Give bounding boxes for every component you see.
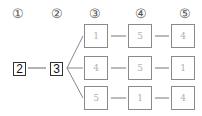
branch-3-col3: 5: [84, 86, 108, 110]
column-label-2: ②: [47, 5, 67, 23]
branch-1-col4: 5: [128, 24, 152, 48]
second-box: 3: [50, 62, 63, 76]
root-box: 2: [13, 62, 26, 76]
branch-2-col5: 1: [171, 56, 195, 80]
branch-2-col4: 5: [128, 56, 152, 80]
column-label-1: ①: [8, 5, 28, 23]
column-label-4: ④: [131, 5, 151, 23]
column-label-3: ③: [85, 5, 105, 23]
branch-3-col4: 1: [128, 86, 152, 110]
branch-1-col5: 4: [171, 24, 195, 48]
branch-1-col3: 1: [84, 24, 108, 48]
branch-2-col3: 4: [84, 56, 108, 80]
column-label-5: ⑤: [175, 5, 195, 23]
branch-3-col5: 4: [171, 86, 195, 110]
